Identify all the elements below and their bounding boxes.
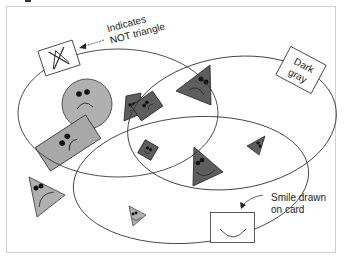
smile-label-line1: Smile drawn	[271, 192, 326, 203]
cropped-mark	[25, 0, 31, 2]
figure-frame	[7, 7, 336, 253]
venn-diagram: Indicates NOT triangle Dark gray Smile d…	[0, 0, 345, 259]
smile-legend-card	[211, 213, 255, 243]
smile-label-line2: on card	[271, 204, 304, 215]
